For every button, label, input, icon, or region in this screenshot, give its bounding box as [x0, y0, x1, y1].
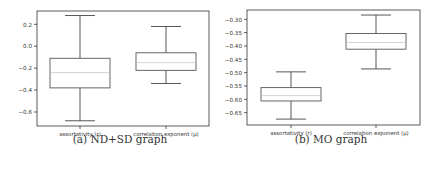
y-tick-label: −0.65	[225, 110, 243, 116]
y-tick-label: 0.0	[23, 43, 32, 49]
box	[136, 53, 196, 71]
caption-b: (b) MO graph	[295, 133, 367, 145]
box-plots: 0.20.0−0.2−0.4−0.6assortativity (r)corre…	[0, 0, 438, 171]
axes-frame	[247, 10, 420, 125]
y-tick-label: −0.4	[18, 87, 32, 93]
y-tick-label: −0.35	[225, 30, 243, 36]
y-tick-label: −0.2	[18, 65, 32, 71]
y-tick-label: −0.6	[18, 109, 32, 115]
box	[50, 58, 110, 88]
caption-a: (a) ND+SD graph	[73, 133, 168, 145]
y-tick-label: −0.45	[225, 57, 243, 63]
y-tick-label: −0.60	[225, 97, 243, 103]
y-tick-label: −0.40	[225, 43, 243, 49]
box	[261, 88, 321, 101]
y-tick-label: −0.30	[225, 17, 243, 23]
figure: 0.20.0−0.2−0.4−0.6assortativity (r)corre…	[0, 0, 438, 171]
y-tick-label: 0.2	[23, 22, 32, 28]
box	[346, 33, 406, 49]
y-tick-label: −0.50	[225, 70, 243, 76]
y-tick-label: −0.55	[225, 83, 243, 89]
